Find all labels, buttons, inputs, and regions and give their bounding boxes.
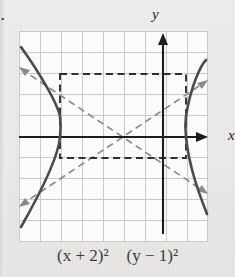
- reference-rectangle: [60, 74, 186, 158]
- equation-caption: (x + 2)²(y − 1)²: [0, 246, 235, 266]
- asymptote-arrowhead-upper-left: [19, 67, 30, 76]
- hyperbola-figure: [19, 31, 208, 242]
- asymptote-arrowhead-lower-left: [19, 198, 30, 207]
- y-axis-arrowhead: [158, 33, 168, 45]
- graph-plot-area: [19, 31, 208, 242]
- x-axis-arrowhead: [196, 132, 208, 142]
- y-axis-label: y: [152, 6, 159, 23]
- caption-term-x: (x + 2)²: [57, 246, 109, 266]
- asymptote-arrowhead-upper-right: [197, 80, 208, 89]
- x-axis-label: x: [228, 127, 235, 144]
- exercise-number-marker: .: [1, 9, 4, 22]
- page-left-edge-shadow: [0, 0, 5, 277]
- caption-term-y: (y − 1)²: [127, 246, 179, 266]
- figure-page: .: [0, 0, 235, 277]
- asymptote-positive-slope: [21, 82, 205, 205]
